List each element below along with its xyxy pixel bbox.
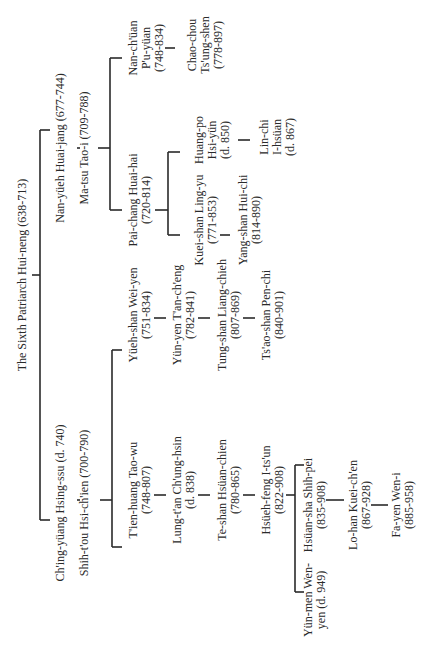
node-name: Ch'ing-yüang Hsing-ssu (d. 740) [53,425,67,582]
node-name: Yün-men Wen- [301,563,315,637]
node-detail: (751-834) [139,291,153,339]
node-itsun: Hsüeh-feng I-ts'un(822-908) [259,445,286,534]
node-name: Yüeh-shan Wei-yen [126,267,140,362]
lineage-diagram: The Sixth Patriarch Hui-neng (638-713)Na… [0,0,423,659]
node-name: Pai-chang Huai-hai [126,153,140,247]
node-weiyen: Yüeh-shan Wei-yen(751-834) [126,267,153,362]
node-detail: (780-865) [228,466,242,514]
node-detail: P'u-yüan [139,27,153,69]
node-detail: (d. 838) [183,471,197,509]
node-name: Kuei-shan Ling-yu [192,175,206,266]
node-detail: (867-928) [359,481,373,529]
node-name: Tung-shan Liang-chieh [215,259,229,371]
node-detail: (840-901) [272,291,286,339]
node-detail: (814-890) [249,196,263,244]
node-shihpei: Hsüan-sha Shih-pei(835-908) [301,457,328,552]
node-detail: (d. 867) [283,118,297,156]
node-detail: Ts'ung-shen [198,16,212,73]
node-hsichien: Shih-t'ou Hsi-ch'ien (700-790) [77,430,91,576]
node-wenyen: Yün-men Wen-yen (d. 949) [301,563,328,637]
node-huaihai: Pai-chang Huai-hai(720-814) [126,153,153,247]
node-name: Lo-han Kuei-ch'en [346,460,360,550]
node-detail: (782-841) [183,291,197,339]
node-tancheng: Yün-yen T'an-ch'eng(782-841) [170,265,197,365]
node-name: Yün-yen T'an-ch'eng [170,265,184,365]
node-name: Hsüeh-feng I-ts'un [259,445,273,534]
node-lingyu: Kuei-shan Ling-yu(771-853) [192,175,219,266]
node-chunghsin: Lung-t'an Ch'ung-hsin(d. 838) [170,436,197,543]
node-name: Huang-po [192,116,206,164]
node-taowu: T'ien-huang Tao-wu(748-807) [126,442,153,539]
node-detail: (778-897) [211,21,225,69]
node-kueichen: Lo-han Kuei-ch'en(867-928) [346,460,373,550]
node-huineng: The Sixth Patriarch Hui-neng (638-713) [15,179,29,372]
node-name: Fa-yen Wen-i [389,472,403,538]
node-name: Lin-chi [257,119,271,155]
node-puyuan: Nan-ch'üanP'u-yüan(748-834) [126,21,166,76]
node-name: Yang-shan Hui-chi [236,174,250,265]
node-huaijang: Nan-yüeh Huai-jang (677-744) [53,73,67,222]
node-detail: I-hsüan [270,119,284,155]
node-name: Ts'ao-shan Pen-chi [259,269,273,360]
node-detail: yen (d. 949) [314,571,328,629]
node-name: The Sixth Patriarch Hui-neng (638-713) [15,179,29,372]
node-labels: The Sixth Patriarch Hui-neng (638-713)Na… [15,16,416,637]
node-name: Nan-yüeh Huai-jang (677-744) [53,73,67,222]
node-detail: (d. 850) [218,121,232,159]
node-name: Hsüan-sha Shih-pei [301,457,315,552]
node-detail: (748-834) [152,24,166,72]
node-name: Ma-tsu Tao-i (709-788) [77,92,91,205]
node-hsuanchien: Te-shan Hsüan-chien(780-865) [215,439,242,540]
node-name: Nan-ch'üan [126,21,140,76]
node-taoi: Ma-tsu Tao-i (709-788) [77,92,91,205]
node-detail: (835-908) [314,481,328,529]
node-detail: (807-869) [228,291,242,339]
node-detail: (748-807) [139,466,153,514]
node-ihsuan: Lin-chiI-hsüan(d. 867) [257,118,297,156]
node-hsingssu: Ch'ing-yüang Hsing-ssu (d. 740) [53,425,67,582]
node-tsungshen: Chao-chouTs'ung-shen(778-897) [185,16,225,73]
node-penchi: Ts'ao-shan Pen-chi(840-901) [259,269,286,360]
node-detail: Hsi-yün [205,121,219,160]
node-name: Te-shan Hsüan-chien [215,439,229,540]
node-name: Chao-chou [185,19,199,72]
node-hsiyun: Huang-poHsi-yün(d. 850) [192,116,232,164]
node-liangchieh: Tung-shan Liang-chieh(807-869) [215,259,242,371]
node-detail: (822-908) [272,466,286,514]
node-detail: (885-958) [402,481,416,529]
node-name: T'ien-huang Tao-wu [126,442,140,539]
node-detail: (720-814) [139,176,153,224]
node-name: Shih-t'ou Hsi-ch'ien (700-790) [77,430,91,576]
node-huichi: Yang-shan Hui-chi(814-890) [236,174,263,265]
node-detail: (771-853) [205,196,219,244]
node-name: Lung-t'an Ch'ung-hsin [170,436,184,543]
node-weni: Fa-yen Wen-i(885-958) [389,472,416,538]
